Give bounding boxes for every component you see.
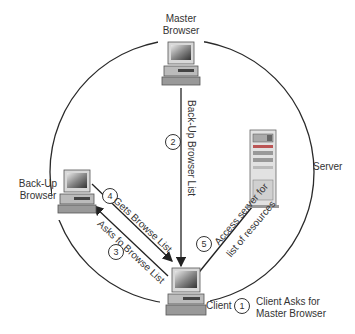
step-2-badge: 2 <box>165 134 181 150</box>
backup-browser-computer-icon <box>58 170 96 213</box>
backup-browser-label: Back-Up Browser <box>18 178 58 202</box>
network-diagram: Master Browser Back-Up Browser Client Se… <box>0 0 355 334</box>
diagram-canvas <box>0 0 355 334</box>
step-5-badge: 5 <box>196 236 212 252</box>
client-computer-icon <box>166 268 206 315</box>
step-1-text: Client Asks for Master Browser <box>256 296 326 320</box>
step-1-badge: 1 <box>234 298 250 314</box>
master-browser-computer-icon <box>162 42 200 85</box>
master-browser-label: Master Browser <box>160 13 202 37</box>
step-2-text: Back-Up Browser List <box>185 100 197 196</box>
client-label: Client <box>206 300 232 312</box>
server-label: Server <box>313 161 342 173</box>
